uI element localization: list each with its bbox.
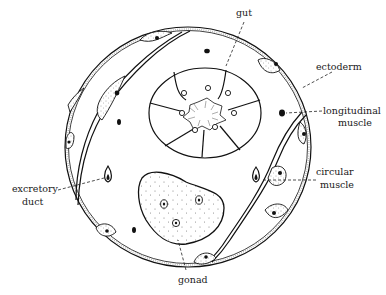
label-circular-muscle-line2: muscle xyxy=(320,179,354,190)
gonad xyxy=(139,172,224,244)
label-longitudinal-muscle-line1: longitudinal xyxy=(323,105,381,116)
label-gonad: gonad xyxy=(178,274,208,285)
gut xyxy=(149,68,261,158)
label-longitudinal-muscle-line2: muscle xyxy=(338,117,372,128)
label-excretory-duct-line1: excretory xyxy=(12,183,59,194)
label-circular-muscle-line1: circular xyxy=(316,166,354,177)
label-gut: gut xyxy=(236,7,252,18)
label-excretory-duct-line2: duct xyxy=(22,196,44,207)
nematode-cross-section-diagram: gut ectoderm longitudinal muscle circula… xyxy=(0,0,386,295)
label-ectoderm: ectoderm xyxy=(316,61,362,72)
